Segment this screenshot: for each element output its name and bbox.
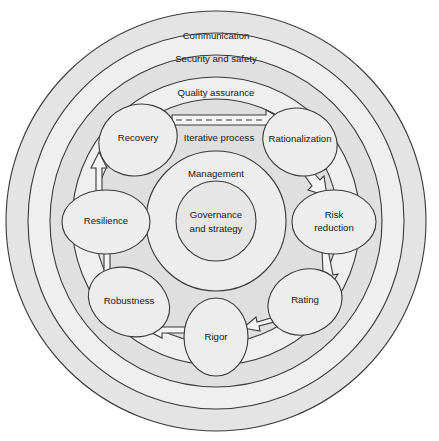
ring-label-communication: Communication <box>183 30 250 41</box>
ring-core-circle <box>176 181 256 261</box>
node-recovery-label: Recovery <box>118 132 159 143</box>
diagram-root: Communication Security and safety Qualit… <box>0 0 439 441</box>
node-rigor[interactable]: Rigor <box>184 298 248 376</box>
core-label-line1: Governance <box>190 209 242 220</box>
node-risk-reduction-label-line2: reduction <box>314 222 353 233</box>
node-robustness-label: Robustness <box>104 295 155 306</box>
ring-label-security-and-safety: Security and safety <box>175 53 257 64</box>
node-rating-label: Rating <box>291 294 319 305</box>
node-risk-reduction[interactable]: Risk reduction <box>292 190 376 254</box>
iterative-process-label: Iterative process <box>184 132 255 143</box>
node-rationalization-label: Rationalization <box>269 133 332 144</box>
management-label: Management <box>188 168 244 179</box>
concentric-cycle-diagram: Communication Security and safety Qualit… <box>0 0 439 441</box>
core-label-line2: and strategy <box>190 223 243 234</box>
node-risk-reduction-label-line1: Risk <box>325 209 344 220</box>
node-resilience-label: Resilience <box>84 215 128 226</box>
node-resilience[interactable]: Resilience <box>62 190 150 254</box>
node-rigor-label: Rigor <box>205 331 229 342</box>
ring-label-quality-assurance: Quality assurance <box>178 87 255 98</box>
